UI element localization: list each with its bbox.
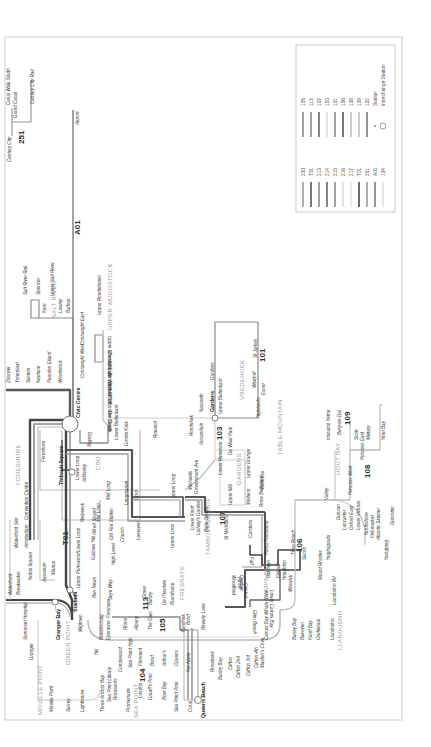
station-label: Bakoven (266, 560, 271, 578)
station-label: St James (253, 338, 258, 358)
legend-label: 109 (357, 98, 362, 106)
station-label: Somerset Hospital (23, 601, 28, 640)
station-label: Princess East (360, 431, 365, 460)
station-label: Bantry Bay (218, 657, 223, 680)
station-label: Lighthouse (80, 689, 85, 712)
station-label: Canal Walk South (6, 68, 11, 105)
station-label: Government Ave (194, 459, 199, 494)
station-label: Valley (324, 487, 329, 500)
area-hout-bay: HOUT BAY (335, 442, 341, 475)
legend-label: 214 (325, 168, 330, 176)
station-label: Rhine (123, 618, 128, 630)
station-label: Belle Ombre (204, 506, 209, 532)
station-label: Kloof Bay (308, 620, 313, 640)
station-label: Grand Canal (13, 91, 18, 118)
legend-label: 230 (301, 168, 306, 176)
station-label: Highlands (256, 397, 261, 418)
legend-label: 104 (381, 168, 386, 176)
station-label: Michaelis (188, 470, 193, 490)
station-label: Old Fire Station (109, 508, 114, 540)
station-label: Adderley (82, 463, 87, 483)
station-label: Stadium (72, 591, 78, 612)
station-label: Clifton 4th (254, 647, 259, 668)
station-label: Oudekraal (316, 618, 321, 640)
station-label: Clifton 3rd (246, 655, 251, 676)
station-label: Ysterplaat (15, 362, 20, 383)
station-label: Skye Way (108, 579, 113, 600)
granger-bay-interchange-icon (52, 599, 58, 605)
station-label: Dorp (134, 490, 139, 500)
station-label: Bond (186, 614, 191, 625)
area-vredehoek: VREDEHOEK (239, 360, 245, 400)
route-108-label: 108 (363, 464, 372, 478)
station-label: London (138, 682, 143, 698)
station-label: Darling (87, 432, 92, 447)
station-label: Convention Centre (24, 481, 29, 520)
station-label: Bantry (148, 591, 153, 605)
station-label: Lancaster (342, 509, 347, 530)
station-label: Balfour (66, 298, 71, 313)
station-label: Nobel Square (28, 551, 33, 580)
station-label: St Michael's (224, 515, 229, 540)
gardens-interchange-icon (212, 415, 218, 421)
route-109-label: 109 (343, 411, 352, 425)
station-label: Fresnaye (106, 598, 111, 618)
station-label: Woodford (231, 575, 236, 595)
station-label: Graaff's Pool (148, 673, 153, 700)
station-label: Upper Mill (228, 483, 233, 505)
station-label: Kei Apple (186, 652, 191, 672)
station-label: Glen Beach (252, 610, 257, 634)
legend-label: 215 (333, 168, 338, 176)
station-label: Three Anchor Bay (100, 674, 105, 712)
station-label: Salt River Rail (23, 265, 28, 295)
station-label: Foreshore (41, 441, 46, 462)
station-label: Arthur's (162, 650, 167, 667)
station-label: Atlantic Skipper (376, 508, 381, 541)
station-label: Llandudno Rd (332, 576, 337, 605)
area-cbd: CBD (95, 456, 101, 470)
station-label: Lower Victoria (356, 501, 361, 530)
station-label: Fall (249, 557, 254, 565)
station-label: Leeuwen (136, 521, 141, 540)
station-label: Lawley (58, 298, 63, 313)
station-label: Upper Orange (246, 448, 251, 478)
station-label: Sea Point Pool (174, 681, 179, 712)
area-upper-woodstock: UPPER WOODSTOCK (107, 263, 113, 330)
station-label: Lower Reservoir (218, 441, 223, 475)
station-label: Century City (7, 136, 12, 162)
station-label: Llandudno (330, 618, 335, 640)
station-label: Hout Bay (381, 420, 386, 440)
station-label: Church (120, 527, 125, 542)
station-label: Berg-en-Dal (337, 409, 342, 435)
station-label: Prima Panorama (264, 520, 269, 555)
legend: 230 T01 213 214 215 216 217 T01 251 A01 … (296, 45, 395, 212)
station-label: Mount Rhodes (318, 549, 323, 580)
station-label: Surrey (66, 698, 71, 712)
legend-interchange-label: Interchange Station (381, 64, 386, 106)
interchange-station-icon (380, 123, 386, 129)
legend-label: T01 (309, 167, 314, 176)
station-label: Lower Loop (76, 528, 81, 552)
legend-label: 102 (365, 98, 370, 106)
station-label: Oxford East (349, 505, 354, 530)
station-label: Cumberland (118, 647, 123, 672)
station-label: Bakoven (300, 622, 305, 640)
station-label: Connaught East (80, 311, 85, 345)
station-label: Carstens (248, 519, 253, 538)
legend-station-label: Station (373, 91, 378, 106)
station-label: Upper Portswood (76, 552, 81, 588)
legend-label: 108 (349, 98, 354, 106)
station-label: Warwick (288, 574, 293, 592)
station-label: Theo Roach (291, 530, 296, 555)
legend-label: 105 (301, 98, 306, 106)
station-label: Gardens (209, 391, 215, 412)
station-label: Paarden Eiland (47, 351, 52, 383)
station-label: Atholl (237, 576, 242, 589)
legend-label: 106 (341, 98, 346, 106)
station-label: Scott (354, 429, 359, 440)
station-label: Mouille Point (49, 685, 54, 712)
legend-label: 216 (341, 168, 346, 176)
station-label: Fishmarket (370, 515, 375, 538)
station-label: Exner (261, 383, 266, 395)
station-label: Marina (51, 561, 56, 575)
